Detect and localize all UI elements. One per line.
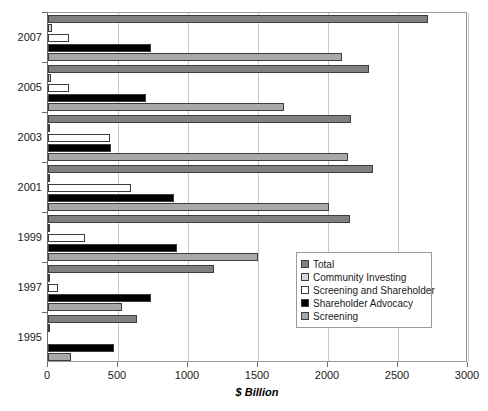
bar-advocacy-1997 [48, 294, 151, 302]
bar-community-2007 [48, 24, 52, 32]
bar-screenshare-2001 [48, 184, 131, 192]
bar-screenshare-1999 [48, 234, 85, 242]
bar-screenshare-2003 [48, 134, 110, 142]
legend-item-total[interactable]: Total [301, 258, 426, 270]
x-tick-3000 [467, 362, 468, 367]
year-group-2005 [48, 63, 466, 113]
x-tick-label-1500: 1500 [245, 369, 269, 381]
x-tick-0 [47, 362, 48, 367]
bar-screening-2001 [48, 203, 329, 211]
x-tick-label-500: 500 [108, 369, 126, 381]
year-group-2001 [48, 163, 466, 213]
x-tick-label-3000: 3000 [455, 369, 479, 381]
bar-screening-2003 [48, 153, 348, 161]
bar-screening-1999 [48, 253, 258, 261]
gridline-3000 [468, 13, 469, 361]
bar-advocacy-2001 [48, 194, 174, 202]
bar-community-1995 [48, 324, 50, 332]
x-tick-label-2500: 2500 [385, 369, 409, 381]
bar-advocacy-2007 [48, 44, 151, 52]
y-tick-2007 [42, 12, 47, 13]
y-tick-label-2003: 2003 [5, 131, 47, 143]
bar-community-2001 [48, 174, 50, 182]
bar-community-1999 [48, 224, 50, 232]
legend-swatch-icon-total [301, 260, 309, 268]
bar-screening-2005 [48, 103, 284, 111]
bar-total-1999 [48, 215, 350, 223]
legend-item-advocacy[interactable]: Shareholder Advocacy [301, 297, 426, 309]
legend-swatch-icon-screening [301, 312, 309, 320]
y-tick-2003 [42, 112, 47, 113]
y-tick-label-2007: 2007 [5, 31, 47, 43]
x-tick-500 [117, 362, 118, 367]
bar-advocacy-2003 [48, 144, 111, 152]
legend-label: Community Investing [313, 272, 406, 283]
legend: TotalCommunity InvestingScreening and Sh… [296, 252, 432, 328]
bar-total-2001 [48, 165, 373, 173]
bar-total-2003 [48, 115, 351, 123]
bar-screening-1995 [48, 353, 71, 361]
bar-total-1997 [48, 265, 214, 273]
legend-item-screenshare[interactable]: Screening and Shareholder [301, 284, 426, 296]
legend-item-community[interactable]: Community Investing [301, 271, 426, 283]
bar-screening-1997 [48, 303, 122, 311]
bar-screenshare-2005 [48, 84, 69, 92]
bar-total-2007 [48, 15, 428, 23]
y-tick-1997 [42, 262, 47, 263]
bar-total-1995 [48, 315, 137, 323]
x-tick-1000 [187, 362, 188, 367]
bar-screening-2007 [48, 53, 342, 61]
bar-screenshare-1997 [48, 284, 58, 292]
legend-swatch-icon-community [301, 273, 309, 281]
year-group-2007 [48, 13, 466, 63]
y-tick-1999 [42, 212, 47, 213]
x-tick-2000 [327, 362, 328, 367]
y-tick-label-1999: 1999 [5, 231, 47, 243]
legend-label: Shareholder Advocacy [313, 298, 413, 309]
x-tick-label-1000: 1000 [175, 369, 199, 381]
legend-swatch-icon-screenshare [301, 286, 309, 294]
x-tick-2500 [397, 362, 398, 367]
bar-advocacy-1999 [48, 244, 177, 252]
y-tick-label-2005: 2005 [5, 81, 47, 93]
legend-label: Screening [313, 311, 358, 322]
y-tick-label-1997: 1997 [5, 281, 47, 293]
y-tick-2005 [42, 62, 47, 63]
bar-chart: 1995199719992001200320052007 $ Billion T… [0, 0, 488, 411]
legend-item-screening[interactable]: Screening [301, 310, 426, 322]
bar-community-1997 [48, 274, 50, 282]
bar-community-2003 [48, 124, 50, 132]
legend-label: Total [313, 259, 334, 270]
y-axis: 1995199719992001200320052007 [0, 0, 47, 411]
y-tick-1995 [42, 312, 47, 313]
y-tick-label-1995: 1995 [5, 331, 47, 343]
bar-advocacy-2005 [48, 94, 146, 102]
legend-swatch-icon-advocacy [301, 299, 309, 307]
x-tick-label-0: 0 [44, 369, 50, 381]
x-tick-1500 [257, 362, 258, 367]
bar-community-2005 [48, 74, 51, 82]
legend-label: Screening and Shareholder [313, 285, 435, 296]
bar-screenshare-2007 [48, 34, 69, 42]
bar-advocacy-1995 [48, 344, 114, 352]
bar-total-2005 [48, 65, 369, 73]
year-group-2003 [48, 113, 466, 163]
x-axis-title: $ Billion [47, 386, 467, 398]
x-tick-label-2000: 2000 [315, 369, 339, 381]
y-tick-2001 [42, 162, 47, 163]
y-tick-label-2001: 2001 [5, 181, 47, 193]
